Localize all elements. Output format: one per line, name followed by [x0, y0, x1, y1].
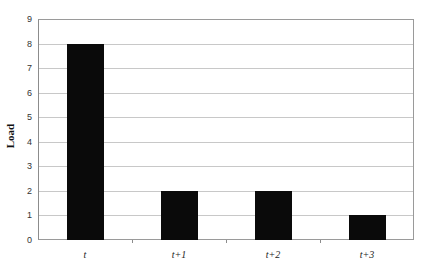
y-tick-label: 5 [14, 112, 32, 122]
bar-t+3 [349, 215, 386, 240]
y-tick-label: 8 [14, 39, 32, 49]
y-tick-label: 9 [14, 14, 32, 24]
x-tick-label: t+2 [243, 249, 303, 260]
bar-chart: Load 0123456789 tt+1t+2t+3 [0, 0, 428, 274]
y-tick-label: 3 [14, 161, 32, 171]
x-tick-mark [226, 240, 227, 243]
y-tick-label: 4 [14, 137, 32, 147]
y-tick-label: 0 [14, 235, 32, 245]
x-tick-label: t [55, 249, 115, 260]
bar-t+2 [255, 191, 292, 240]
x-tick-label: t+1 [149, 249, 209, 260]
y-tick-label: 1 [14, 210, 32, 220]
x-tick-label: t+3 [337, 249, 397, 260]
bar-t+1 [161, 191, 198, 240]
x-tick-mark [132, 240, 133, 243]
y-tick-label: 2 [14, 186, 32, 196]
y-tick-label: 6 [14, 88, 32, 98]
x-tick-mark [320, 240, 321, 243]
y-tick-label: 7 [14, 63, 32, 73]
bar-t [67, 44, 104, 240]
